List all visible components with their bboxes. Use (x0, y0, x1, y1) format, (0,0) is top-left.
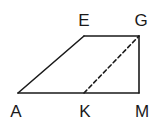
label-K: K (79, 102, 91, 121)
segment-KG-dashed (84, 36, 139, 93)
label-G: G (134, 11, 147, 30)
label-M: M (135, 102, 149, 121)
label-E: E (78, 11, 89, 30)
label-A: A (10, 102, 22, 121)
geometry-diagram: E G A K M (0, 0, 160, 123)
segment-AE (18, 36, 84, 93)
